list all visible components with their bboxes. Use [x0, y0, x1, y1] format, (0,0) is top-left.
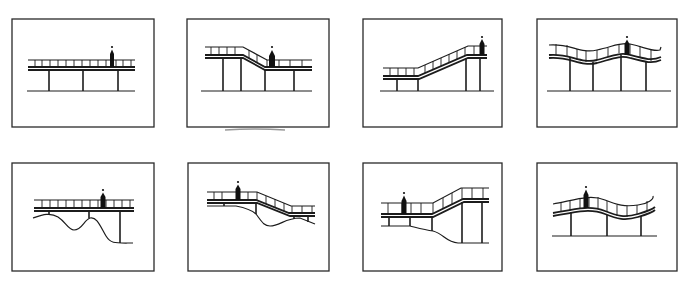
panel-7-ascending-walkway-over-terrain: [363, 163, 502, 271]
walkway-diagram-grid: [0, 0, 686, 282]
panel-4-wave-walkway: [537, 19, 677, 127]
panel-5-flat-walkway-over-terrain: [12, 163, 154, 271]
panel-frame: [537, 19, 677, 127]
panel-3-ascending-ramp-walkway: [363, 19, 502, 127]
panel-6-descending-walkway-over-terrain: [188, 163, 329, 271]
panel-1-flat-walkway: [12, 19, 154, 127]
panel-frame: [12, 163, 154, 271]
panel-8-gentle-wave-walkway: [537, 163, 677, 271]
scan-shadow: [225, 129, 285, 130]
panel-2-descending-ramp-walkway: [187, 19, 329, 130]
panel-frame: [187, 19, 329, 127]
